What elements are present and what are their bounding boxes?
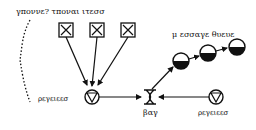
half-filled-circle-icon (229, 39, 245, 55)
left-source-label: ρεγειεεσ (38, 94, 68, 104)
arrow-box3-to-valve (98, 37, 128, 85)
arrow-bag-to-queue (152, 67, 173, 89)
box-x-icon (59, 23, 73, 37)
half-filled-circle-icon (200, 45, 216, 61)
arrow-box1-to-valve (66, 37, 87, 85)
dotted-brace (20, 20, 30, 102)
queue-link-2 (216, 48, 227, 51)
right-source-label: ρεγειεεσ (198, 108, 228, 118)
box-x-icon (121, 23, 135, 37)
hourglass-bag-icon (144, 90, 156, 104)
queue-label: μ εσσαγε θυευε (172, 30, 235, 40)
bag-label: βαγ (143, 108, 158, 118)
top-label: γποννε? τποναι ιτεσσ (16, 7, 105, 17)
box-x-icon (90, 23, 104, 37)
queue-link-1 (189, 56, 199, 59)
valve-triangle-circle-icon (209, 90, 223, 104)
half-filled-circle-icon (173, 53, 189, 69)
arrow-box2-to-valve (92, 37, 97, 86)
valve-triangle-circle-icon (85, 90, 99, 104)
